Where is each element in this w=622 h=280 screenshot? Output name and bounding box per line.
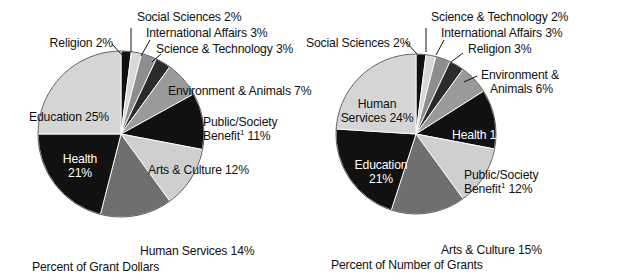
chart-panel-number-of-grants: Social Sciences 2% Science & Technology … bbox=[311, 0, 622, 280]
leader-line-international-affairs bbox=[436, 40, 444, 55]
slice-label-health-line2: 21% bbox=[46, 166, 114, 180]
slice-label-education: Education 25% bbox=[29, 110, 109, 124]
slice-label-human-services-line2: Services 24% bbox=[327, 111, 427, 125]
slice-label-health: Health 12% bbox=[452, 128, 514, 142]
callout-science-technology: Science & Technology 3% bbox=[156, 42, 293, 56]
pie-slices-grant-dollars bbox=[38, 51, 204, 217]
slice-label-human-services-line1: Human bbox=[334, 97, 420, 111]
callout-international-affairs: International Affairs 3% bbox=[146, 26, 268, 40]
leader-line-religion bbox=[451, 53, 463, 62]
callout-human-services: Human Services 14% bbox=[140, 244, 255, 258]
slice-label-education-line2: 21% bbox=[341, 172, 421, 186]
caption-number-of-grants: Percent of Number of Grants bbox=[331, 258, 483, 272]
callout-environment-animals: Environment & Animals 7% bbox=[168, 84, 311, 98]
callout-environment-animals-line1: Environment & bbox=[481, 68, 559, 82]
public-society-benefit-pct: 12% bbox=[505, 182, 532, 196]
callout-international-affairs: International Affairs 3% bbox=[441, 26, 563, 40]
slice-label-education-line1: Education bbox=[341, 158, 421, 172]
caption-grant-dollars: Percent of Grant Dollars bbox=[32, 260, 159, 274]
leader-line-international-affairs bbox=[141, 40, 150, 56]
callout-arts-culture: Arts & Culture 12% bbox=[148, 163, 249, 177]
callout-environment-animals-line2: Animals 6% bbox=[490, 82, 553, 96]
callout-religion: Religion 2% bbox=[10, 36, 113, 50]
public-society-benefit-text: Benefit bbox=[203, 129, 240, 143]
callout-public-society-benefit-line2: Benefit1 12% bbox=[464, 182, 532, 196]
callout-religion: Religion 3% bbox=[468, 42, 531, 56]
callout-arts-culture: Arts & Culture 15% bbox=[441, 243, 542, 257]
public-society-benefit-pct: 11% bbox=[244, 129, 270, 143]
callout-public-society-benefit-line2: Benefit1 11% bbox=[203, 129, 271, 143]
callout-social-sciences: Social Sciences 2% bbox=[306, 36, 406, 50]
callout-science-technology: Science & Technology 2% bbox=[431, 10, 568, 24]
callout-social-sciences: Social Sciences 2% bbox=[137, 10, 241, 24]
public-society-benefit-text: Benefit bbox=[464, 182, 501, 196]
chart-panel-grant-dollars: Religion 2% Social Sciences 2% Internati… bbox=[0, 0, 311, 280]
pie-chart-figure: Religion 2% Social Sciences 2% Internati… bbox=[0, 0, 622, 280]
slice-label-health-line1: Health bbox=[46, 152, 114, 166]
